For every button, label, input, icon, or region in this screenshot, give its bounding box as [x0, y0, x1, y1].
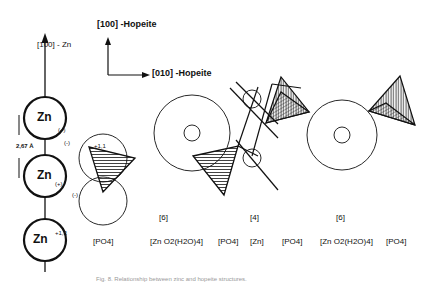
bottom-label-po4-2: [PO4]	[218, 237, 238, 246]
zn-atom-label-3: Zn	[33, 232, 48, 246]
bottom-label-zn: [Zn]	[250, 237, 264, 246]
po4-right-3d	[369, 76, 415, 125]
bottom-label-znoct-2: [Zn O2(H2O)4]	[320, 237, 373, 246]
diagram-canvas: [100] - Zn [100] -Hopeite [010] -Hopeite…	[0, 0, 429, 285]
zn-atom-label-1: Zn	[37, 110, 52, 124]
zn-axis-label: [100] - Zn	[37, 40, 71, 49]
coordination-label-2: [4]	[250, 213, 259, 222]
zn-atom-label-2: Zn	[37, 168, 52, 182]
coordination-label-1: [6]	[159, 213, 168, 222]
figure-caption: Fig. 8. Relationship between zinc and ho…	[96, 276, 247, 282]
circle-charge-upper: (-)	[64, 140, 70, 146]
bottom-label-po4-3: [PO4]	[282, 237, 302, 246]
bottom-label-znoct-1: [Zn O2(H2O)4]	[150, 237, 203, 246]
zn-atom-charge-2: (+)	[55, 181, 63, 187]
circle-charge-lower: (-)	[72, 192, 78, 198]
coordination-label-3: [6]	[336, 213, 345, 222]
vertex-charge: +1,1	[94, 143, 106, 149]
po4-left-group	[79, 134, 135, 225]
hopeite-vertical-label: [100] -Hopeite	[97, 19, 157, 29]
distance-label: 2,67 Å	[16, 143, 34, 149]
octahedron-2	[307, 100, 377, 170]
zn-atom-charge-1: (+)	[58, 127, 66, 133]
hopeite-axes	[105, 37, 150, 78]
hopeite-horizontal-label: [010] -Hopeite	[152, 68, 212, 78]
bottom-label-po4-4: [PO4]	[386, 237, 406, 246]
bottom-label-po4-1: [PO4]	[93, 237, 113, 246]
zn-atom-charge-3: +1,3	[55, 230, 67, 236]
